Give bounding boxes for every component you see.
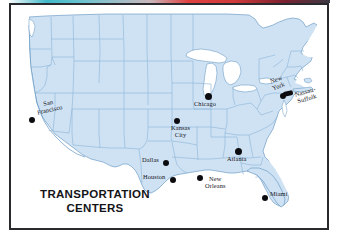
dallas-label: Dallas xyxy=(142,157,159,164)
san-francisco-dot xyxy=(29,117,35,123)
map-frame: SanFrancisco Chicago KansasCity NewYork … xyxy=(9,3,329,230)
color-calibration-strip xyxy=(8,0,330,3)
kansas-city-label: KansasCity xyxy=(171,125,190,138)
map-title-line-2: CENTERS xyxy=(25,202,165,216)
atlanta-dot xyxy=(235,148,242,155)
map-title: TRANSPORTATION CENTERS xyxy=(25,188,165,215)
no-line2: Orleans xyxy=(205,182,226,189)
kc-line2: City xyxy=(175,131,186,138)
miami-dot xyxy=(262,195,268,201)
houston-label: Houston xyxy=(143,174,165,181)
chicago-dot xyxy=(205,93,212,100)
new-orleans-label: NewOrleans xyxy=(205,176,226,189)
dallas-dot xyxy=(163,160,169,166)
chicago-label: Chicago xyxy=(194,101,216,108)
houston-dot xyxy=(170,177,176,183)
map-title-line-1: TRANSPORTATION xyxy=(25,188,165,202)
map-screenshot: SanFrancisco Chicago KansasCity NewYork … xyxy=(0,0,338,243)
atlanta-label: Atlanta xyxy=(227,156,247,163)
miami-label: Miami xyxy=(270,191,288,198)
new-orleans-dot xyxy=(197,175,203,181)
map-canvas: SanFrancisco Chicago KansasCity NewYork … xyxy=(11,5,327,228)
